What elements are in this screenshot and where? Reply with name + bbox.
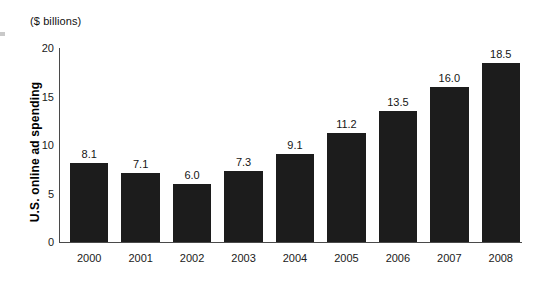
- x-axis-line: [59, 242, 522, 243]
- bar-column: 16.0: [430, 48, 468, 242]
- bar-value-label: 8.1: [62, 148, 116, 160]
- x-axis-tick-label: 2005: [319, 252, 373, 265]
- x-axis-tick-labels: 200020012002200320042005200620072008: [59, 252, 522, 270]
- x-axis-tick-label: 2003: [216, 252, 270, 265]
- bar-rect: [379, 111, 417, 242]
- bar-value-label: 16.0: [422, 72, 476, 84]
- bar-rect: [70, 163, 108, 242]
- bar-value-label: 6.0: [165, 169, 219, 181]
- x-axis-tick-label: 2000: [62, 252, 116, 265]
- y-axis-tick-label: 5: [28, 189, 54, 200]
- x-axis-tick-label: 2008: [474, 252, 528, 265]
- bar-column: 13.5: [379, 48, 417, 242]
- bar-rect: [224, 171, 262, 242]
- x-axis-tick-label: 2006: [371, 252, 425, 265]
- y-axis-tick-label: 0: [28, 237, 54, 248]
- bar-value-label: 7.1: [113, 158, 167, 170]
- bar-value-label: 7.3: [216, 156, 270, 168]
- bars-layer: 8.17.16.07.39.111.213.516.018.5: [59, 48, 522, 242]
- bar-rect: [430, 87, 468, 242]
- bar-rect: [276, 154, 314, 242]
- bar-rect: [482, 63, 520, 242]
- x-axis-tick-label: 2002: [165, 252, 219, 265]
- bar-column: 6.0: [173, 48, 211, 242]
- bar-rect: [327, 133, 365, 242]
- bar-value-label: 9.1: [268, 139, 322, 151]
- bar-column: 18.5: [482, 48, 520, 242]
- scan-artifact-mark: [0, 32, 5, 36]
- y-axis-tick-labels: 05101520: [26, 0, 54, 282]
- x-axis-tick-label: 2004: [268, 252, 322, 265]
- bar-value-label: 18.5: [474, 48, 528, 60]
- bar-rect: [121, 173, 159, 242]
- bar-value-label: 11.2: [319, 118, 373, 130]
- bar-column: 11.2: [327, 48, 365, 242]
- bar-column: 8.1: [70, 48, 108, 242]
- y-axis-tick-label: 20: [28, 43, 54, 54]
- bar-column: 7.1: [121, 48, 159, 242]
- x-axis-tick-label: 2001: [113, 252, 167, 265]
- bar-chart-figure: ($ billions) U.S. online ad spending 051…: [0, 0, 548, 282]
- y-axis-tick-label: 10: [28, 140, 54, 151]
- bar-column: 7.3: [224, 48, 262, 242]
- x-axis-tick-label: 2007: [422, 252, 476, 265]
- y-axis-tick-label: 15: [28, 92, 54, 103]
- bar-column: 9.1: [276, 48, 314, 242]
- bar-rect: [173, 184, 211, 242]
- bar-value-label: 13.5: [371, 96, 425, 108]
